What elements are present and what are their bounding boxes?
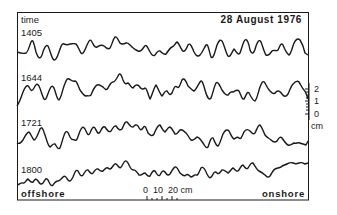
vscale-unit: cm xyxy=(311,121,323,131)
time-label-1800: 1800 xyxy=(21,165,42,175)
chart-title: 28 August 1976 xyxy=(221,15,302,25)
vertical-scale xyxy=(305,83,309,120)
hscale-label: 0 10 20 cm xyxy=(143,185,193,195)
trace-1644 xyxy=(17,74,308,106)
onshore-label: onshore xyxy=(262,189,305,199)
vscale-tick-2: 2 xyxy=(314,84,319,94)
trace-1405 xyxy=(17,37,308,60)
time-label-1405: 1405 xyxy=(21,28,42,38)
trace-1800 xyxy=(17,161,308,186)
time-axis-label: time xyxy=(21,15,39,25)
time-label-1721: 1721 xyxy=(21,118,42,128)
chart-frame xyxy=(18,13,309,201)
vscale-tick-1: 1 xyxy=(314,96,319,106)
trace-1721 xyxy=(17,122,308,149)
wave-profile-figure xyxy=(0,0,337,215)
offshore-label: offshore xyxy=(21,189,65,199)
vscale-tick-0: 0 xyxy=(314,109,319,119)
time-label-1644: 1644 xyxy=(21,73,42,83)
horizontal-scale xyxy=(147,196,177,200)
